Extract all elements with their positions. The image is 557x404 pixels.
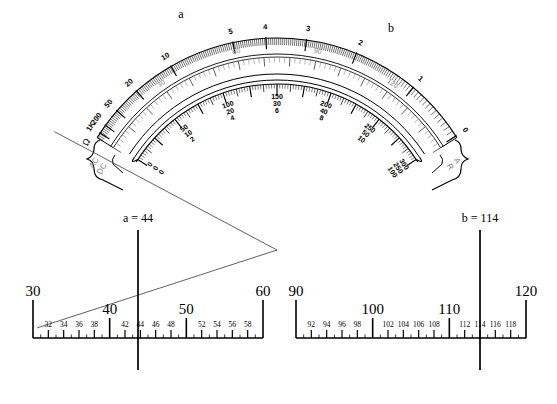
inner-tick-minor	[290, 85, 291, 92]
dial-right-cap-outer	[441, 138, 457, 148]
dc-tick-major	[314, 61, 316, 70]
inner-tick-minor	[349, 102, 351, 106]
ohms-tick-minor	[447, 131, 453, 135]
inner-tick-minor	[312, 88, 313, 92]
multimeter-dial-face: 0123451020502001KΩ3060901200005010210020…	[80, 22, 470, 190]
dc-tick-minor	[203, 72, 205, 77]
inner-tick-minor	[218, 95, 220, 99]
ohms-tick-minor	[333, 46, 335, 53]
dc-tick-major	[419, 127, 426, 133]
inner-tick-minor	[233, 90, 234, 94]
inner-tick-minor	[231, 91, 232, 95]
inner-tick-minor	[306, 87, 307, 91]
ohms-scale-label: 1	[416, 74, 425, 84]
ohms-tick-minor	[218, 46, 220, 53]
dc-tick-minor	[320, 62, 321, 67]
inner-tick-minor	[356, 105, 358, 109]
inner-tick-minor	[322, 91, 323, 95]
dc-tick-minor	[163, 95, 166, 99]
bracket-label-r: R	[445, 162, 456, 172]
dc-tick-minor	[392, 98, 395, 102]
ohms-tick-minor	[122, 105, 127, 110]
ohms-tick-minor	[113, 116, 118, 120]
ohms-tick-minor	[207, 50, 209, 57]
ohms-tick-minor	[419, 97, 424, 102]
numberline-label-minor: 56	[229, 320, 237, 329]
dc-tick-major	[147, 108, 153, 115]
dc-tick-major	[167, 92, 172, 99]
inner-tick-minor	[409, 155, 413, 158]
inner-tick-major	[391, 138, 399, 145]
inner-tick-minor	[314, 88, 315, 92]
ohms-scale-label: 20	[123, 76, 135, 88]
ohms-tick-minor	[350, 52, 352, 59]
ohms-scale-label: 50	[102, 97, 114, 109]
inner-tick-minor	[160, 132, 163, 135]
dc-tick-minor	[132, 123, 136, 127]
dc-tick-minor	[135, 119, 139, 123]
meter-and-numberline-figure: 0123451020502001KΩ3060901200005010210020…	[0, 0, 557, 404]
inner-tick-minor	[142, 153, 146, 156]
numberline-label-major: 30	[26, 283, 41, 299]
inner-tick-minor	[301, 86, 302, 90]
dc-tick-major	[401, 108, 407, 115]
ohms-tick-minor	[226, 44, 228, 51]
inner-tick-minor	[324, 91, 325, 95]
ohms-tick-major	[136, 90, 144, 99]
dc-tick-minor	[259, 58, 260, 63]
ohms-tick-minor	[344, 50, 346, 57]
dc-tick-minor	[139, 115, 143, 119]
ohms-tick-minor	[312, 41, 313, 48]
ohms-tick-minor	[213, 48, 215, 55]
inner-tick-minor	[337, 96, 339, 100]
inner-tick-minor	[215, 96, 217, 100]
numberline-label-major: 60	[256, 283, 271, 299]
ohms-tick-minor	[143, 86, 147, 91]
ohms-tick-major	[406, 87, 414, 96]
ohms-tick-minor	[131, 96, 136, 101]
inner-tick-minor	[213, 97, 215, 101]
dc-tick-minor	[376, 86, 379, 91]
numberline-label-minor: 92	[308, 320, 316, 329]
inner-tick-minor	[149, 144, 152, 147]
inner-tick-minor	[200, 103, 202, 107]
inner-tick-minor	[296, 85, 297, 89]
dc-tick-minor	[228, 63, 229, 68]
inner-tick-minor	[184, 113, 187, 117]
ohms-scale-ticks: 0123451020502001KΩ	[80, 22, 470, 147]
ohms-tick-minor	[422, 100, 427, 105]
dc-tick-major	[213, 68, 216, 77]
dc-tick-major	[264, 57, 265, 66]
dc-tick-minor	[125, 131, 129, 134]
numberline-label-minor: 58	[244, 320, 252, 329]
inner-tick-minor	[177, 118, 180, 122]
ohms-tick-minor	[292, 39, 293, 46]
numberline-a: 30405060323436384244464852545658a = 44	[26, 211, 271, 370]
inner-tick-minor	[359, 107, 361, 111]
ohms-tick-minor	[109, 120, 115, 124]
dc-tick-minor	[171, 89, 174, 94]
ohms-tick-minor	[224, 45, 226, 52]
indicator-a-label: a = 44	[123, 211, 153, 225]
inner-tick-minor	[226, 92, 227, 96]
dc-tick-minor	[388, 95, 391, 99]
dc-tick-minor	[380, 89, 383, 94]
ohms-tick-minor	[112, 117, 117, 121]
dc-tick-major	[338, 68, 341, 77]
dial-left-cap-outer	[97, 138, 113, 148]
right-bracket-small	[432, 155, 443, 173]
number-lines: 30405060323436384244464852545658a = 4490…	[26, 211, 538, 370]
inner-scale-label: 8	[319, 114, 325, 122]
inner-tick-minor	[374, 118, 377, 122]
ohms-tick-minor	[125, 102, 130, 107]
ohms-tick-minor	[142, 87, 146, 92]
ohms-tick-minor	[425, 103, 430, 108]
figure-canvas: 0123451020502001KΩ3060901200005010210020…	[0, 0, 557, 404]
numberline-label-minor: 48	[167, 320, 175, 329]
inner-scale-ticks: 0005010210020415030620040825050103002501…	[138, 84, 416, 179]
dc-tick-minor	[116, 143, 121, 146]
dc-tick-minor	[427, 135, 431, 138]
numberline-label-minor: 54	[213, 320, 221, 329]
dc-tick-minor	[243, 60, 244, 65]
ohms-tick-minor	[114, 114, 119, 118]
